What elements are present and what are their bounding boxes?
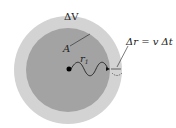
area-label: A	[62, 43, 70, 54]
delta-v-label: ΔV	[64, 11, 79, 22]
shell-thickness-label: Δr = v Δt	[125, 36, 174, 47]
center-dot	[67, 67, 72, 72]
sphere-diagram: ΔV A r1 Δr = v Δt	[0, 0, 176, 128]
